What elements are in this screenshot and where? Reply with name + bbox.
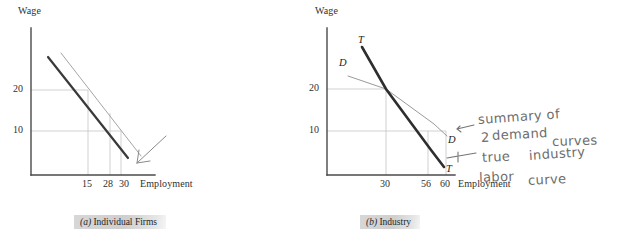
panel-a-caption-text: Individual Firms — [93, 217, 157, 227]
curve-label-d-upper: D — [339, 57, 347, 68]
panel-a-axes — [31, 28, 155, 175]
pointer-arrow-to-d — [457, 125, 474, 132]
panel-b-gridlines — [327, 89, 446, 175]
panel-individual-firms: Wage Employment 20 10 15 28 30 (a) Indiv… — [0, 0, 310, 245]
handwritten-note-1-line-2-prefix: 2 — [481, 130, 490, 145]
panel-b-axes — [327, 28, 455, 175]
panel-b-ytick-20: 20 — [309, 82, 319, 93]
panel-b-ytick-10: 10 — [309, 124, 319, 135]
panel-b-xtick-30: 30 — [380, 178, 390, 189]
curve-label-t-top: T — [358, 34, 364, 45]
panel-b-plot — [300, 0, 621, 245]
panel-a-xtick-28: 28 — [103, 178, 113, 189]
handwritten-note-2-line-1-prefix: true — [482, 149, 511, 165]
panel-b-xtick-56: 56 — [421, 178, 431, 189]
shift-arrow-shaft — [137, 136, 166, 163]
panel-a-caption-letter: (a) — [80, 217, 91, 227]
handwritten-note-2-line-2-suffix: curve — [528, 171, 567, 188]
panel-b-caption-letter: (b) — [366, 217, 377, 227]
demand-curve-thin — [61, 53, 141, 156]
panel-a-caption: (a) Individual Firms — [74, 215, 166, 229]
panel-b-y-axis-label: Wage — [315, 5, 338, 16]
curve-label-d-lower: D — [448, 134, 456, 145]
panel-a-plot — [0, 0, 310, 245]
panel-industry: Wage Employment 20 10 30 56 60 T D D T (… — [300, 0, 621, 245]
panel-b-caption-text: Industry — [379, 217, 411, 227]
panel-a-xtick-15: 15 — [82, 178, 92, 189]
panel-a-y-axis-label: Wage — [18, 5, 41, 16]
figure-root: Wage Employment 20 10 15 28 30 (a) Indiv… — [0, 0, 621, 245]
panel-a-x-axis-label: Employment — [140, 178, 193, 189]
handwritten-note-1-line-2-mid: demand — [492, 125, 548, 143]
panel-b-caption: (b) Industry — [360, 215, 420, 229]
shift-arrow — [137, 136, 166, 163]
panel-a-ytick-20: 20 — [13, 83, 23, 94]
panel-a-xtick-30: 30 — [119, 178, 129, 189]
pointer-arrow-to-t — [447, 152, 476, 162]
curve-t-thick — [362, 47, 444, 167]
handwritten-note-2-line-2-prefix: labor — [479, 169, 515, 185]
panel-b-xtick-60: 60 — [440, 178, 450, 189]
curve-label-t-bottom: T — [446, 163, 452, 174]
panel-a-ytick-10: 10 — [13, 124, 23, 135]
